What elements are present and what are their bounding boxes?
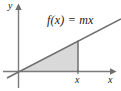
equation-label: f(x) = mx: [47, 14, 94, 26]
linear-function-figure: f(x) = mx y x x: [0, 0, 121, 91]
y-axis-label: y: [8, 1, 12, 11]
x-tick-label: x: [75, 75, 79, 85]
y-axis-arrowhead-icon: [15, 4, 21, 11]
x-axis-label: x: [108, 75, 112, 85]
